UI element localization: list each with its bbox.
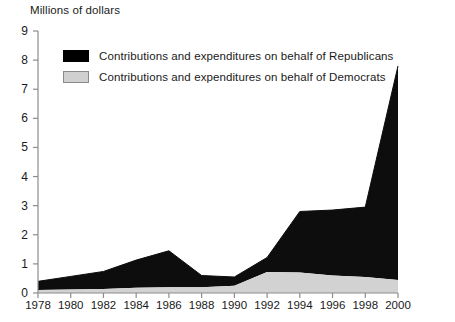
y-tick-label: 2 xyxy=(6,229,28,241)
y-tick-label: 6 xyxy=(6,112,28,124)
x-tick-label: 2000 xyxy=(376,300,420,312)
y-tick-label: 3 xyxy=(6,200,28,212)
y-tick-label: 8 xyxy=(6,54,28,66)
chart-legend: Contributions and expenditures on behalf… xyxy=(63,45,393,87)
y-tick-label: 0 xyxy=(6,287,28,299)
legend-swatch-republicans-icon xyxy=(63,50,89,62)
y-tick-label: 9 xyxy=(6,25,28,37)
y-tick-label: 5 xyxy=(6,141,28,153)
y-axis-ticks xyxy=(33,31,38,293)
area-chart: Millions of dollars 0123456789 197819801… xyxy=(0,0,455,322)
legend-item-democrats: Contributions and expenditures on behalf… xyxy=(63,66,393,87)
legend-swatch-democrats-icon xyxy=(63,71,89,83)
y-tick-label: 7 xyxy=(6,83,28,95)
area-republicans xyxy=(38,66,398,290)
stacked-area-series xyxy=(38,66,398,293)
legend-label-democrats: Contributions and expenditures on behalf… xyxy=(99,71,386,83)
legend-label-republicans: Contributions and expenditures on behalf… xyxy=(99,50,393,62)
y-tick-label: 1 xyxy=(6,258,28,270)
x-axis-ticks xyxy=(38,293,398,298)
legend-item-republicans: Contributions and expenditures on behalf… xyxy=(63,45,393,66)
y-tick-label: 4 xyxy=(6,171,28,183)
